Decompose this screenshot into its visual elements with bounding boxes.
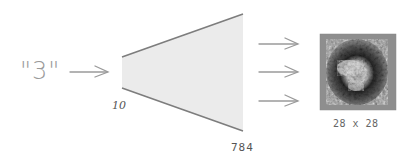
- output-arrow: [259, 66, 298, 77]
- input-arrow: [70, 66, 108, 77]
- output-size-label: 784: [231, 141, 254, 154]
- image-dimensions-label: 28 x 28: [333, 118, 379, 129]
- output-arrows: [259, 38, 298, 106]
- diagram-canvas: [0, 0, 418, 164]
- output-arrow: [259, 38, 298, 49]
- input-digit-label: "3": [20, 57, 60, 85]
- decoder-trapezoid: [122, 14, 243, 131]
- output-arrow: [259, 95, 298, 106]
- generated-digit-image: [320, 34, 396, 110]
- latent-size-label: 10: [112, 99, 126, 112]
